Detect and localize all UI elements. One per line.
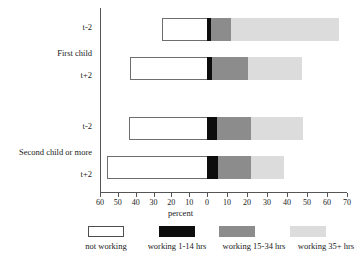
bar-segment-working-35-plus (251, 156, 284, 179)
stacked-bar (162, 18, 339, 41)
chart-legend: not working working 1-14 hrs working 15-… (0, 222, 361, 261)
x-axis-title: percent (0, 208, 361, 218)
x-axis-tick (136, 193, 137, 197)
y-label-second-child-t-plus-2: t+2 (0, 169, 92, 180)
y-axis-line (100, 8, 101, 193)
bar-segment-working-35-plus (248, 57, 302, 80)
x-axis-tick (287, 193, 288, 197)
legend-swatch-working-1-14 (159, 226, 195, 237)
legend-label-not-working: not working (70, 241, 142, 252)
x-axis-tick (247, 193, 248, 197)
legend-swatch-not-working (88, 226, 124, 237)
x-axis-tick (347, 193, 348, 197)
y-label-second-child-t-2: t-2 (0, 121, 92, 132)
legend-label-working-15-34: working 15-34 hrs (212, 241, 296, 252)
x-axis-tick (154, 193, 155, 197)
x-axis-tick (307, 193, 308, 197)
legend-label-working-1-14: working 1-14 hrs (137, 241, 217, 252)
bar-segment-working-15-34 (217, 117, 251, 140)
bar-segment-working-1-14 (207, 156, 218, 179)
legend-label-working-35-plus: working 35+ hrs (288, 241, 361, 252)
bar-segment-working-35-plus (251, 117, 303, 140)
bar-segment-working-1-14 (207, 117, 217, 140)
bar-segment-working-15-34 (212, 57, 248, 80)
bar-segment-working-15-34 (218, 156, 251, 179)
bar-segment-working-35-plus (231, 18, 339, 41)
x-axis-tick (227, 193, 228, 197)
x-axis-tick (267, 193, 268, 197)
x-axis-tick (171, 193, 172, 197)
y-label-first-child-t-plus-2: t+2 (0, 70, 92, 81)
x-axis-tick (189, 193, 190, 197)
x-axis-tick (207, 193, 208, 197)
y-label-first-child-t-2: t-2 (0, 22, 92, 33)
stacked-bar (107, 156, 284, 179)
legend-swatch-working-15-34 (219, 226, 255, 237)
bar-segment-not-working (107, 156, 207, 179)
x-axis-tick (327, 193, 328, 197)
stacked-bar-chart: 605040302010010203040506070 percent t-2 … (0, 0, 361, 261)
bar-segment-not-working (130, 57, 207, 80)
bar-segment-working-15-34 (211, 18, 231, 41)
legend-swatch-working-35-plus (290, 226, 326, 237)
x-axis-tick-label: 70 (334, 198, 360, 208)
bar-segment-not-working (129, 117, 207, 140)
y-group-label-first-child: First child (0, 48, 92, 59)
y-group-label-second-child: Second child or more (0, 147, 92, 158)
bar-segment-not-working (162, 18, 207, 41)
x-axis-tick (118, 193, 119, 197)
x-axis-tick (100, 193, 101, 197)
stacked-bar (129, 117, 303, 140)
stacked-bar (130, 57, 302, 80)
x-axis-line (100, 192, 347, 193)
